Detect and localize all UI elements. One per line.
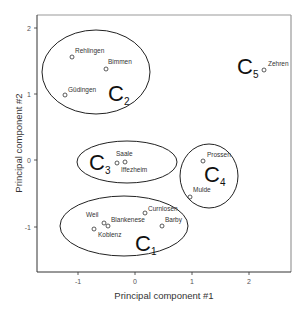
point-saale — [115, 161, 119, 165]
x-tick-label: 1 — [190, 278, 194, 285]
cluster-label-c4: C4 — [204, 162, 226, 188]
y-axis-title: Principal component #2 — [13, 93, 24, 192]
point-zehren — [262, 68, 266, 72]
label-prossen: Prossen — [207, 151, 231, 158]
point-barby — [160, 224, 164, 228]
point-gudingen — [63, 93, 67, 97]
y-tick-label: 2 — [27, 25, 31, 32]
x-axis-title: Principal component #1 — [114, 290, 213, 301]
cluster-c2-ellipse — [42, 30, 150, 114]
point-koblenz — [92, 227, 96, 231]
cluster-label-c5: C5 — [237, 54, 259, 80]
label-gudingen: Güdingen — [68, 86, 97, 94]
x-axis-ticks: -1 0 1 2 — [75, 272, 251, 285]
y-axis-ticks: 2 1 0 -1 — [25, 25, 37, 231]
label-koblenz: Koblenz — [98, 231, 122, 238]
label-bimmen: Bimmen — [108, 58, 132, 65]
point-mulde — [188, 195, 192, 199]
label-blankenese: Blankenese — [111, 216, 145, 223]
y-tick-label: -1 — [25, 224, 31, 231]
point-weil — [102, 221, 106, 225]
label-barby: Barby — [165, 216, 183, 224]
label-zehren: Zehren — [268, 60, 289, 67]
y-tick-label: 1 — [27, 91, 31, 98]
x-tick-label: -1 — [75, 278, 81, 285]
pca-scatter-chart: 2 1 0 -1 -1 0 1 2 Principal component #1… — [0, 0, 306, 312]
point-bimmen — [104, 67, 108, 71]
label-iffezheim: Iffezheim — [121, 166, 147, 173]
point-blankenese — [106, 224, 110, 228]
point-prossen — [201, 159, 205, 163]
cluster-label-c3: C3 — [89, 150, 111, 176]
point-curnlosen — [143, 211, 147, 215]
cluster-labels: C2 C3 C4 C1 C5 — [89, 54, 259, 257]
point-iffezheim — [123, 160, 127, 164]
label-saale: Saale — [116, 150, 133, 157]
label-mulde: Mulde — [193, 186, 211, 193]
point-rehlingen — [70, 55, 74, 59]
cluster-label-c1: C1 — [135, 231, 157, 257]
y-tick-label: 0 — [27, 157, 31, 164]
label-rehlingen: Rehlingen — [75, 47, 105, 55]
x-tick-label: 0 — [133, 278, 137, 285]
label-weil: Weil — [86, 211, 99, 218]
label-curnlosen: Curnlosen — [148, 205, 178, 212]
x-tick-label: 2 — [247, 278, 251, 285]
cluster-label-c2: C2 — [108, 81, 130, 107]
